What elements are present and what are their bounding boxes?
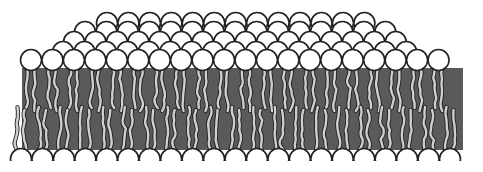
lipid-head-front [171,50,192,71]
lipid-head-front [149,50,170,71]
lipid-head-front [364,50,385,71]
lipid-head-front [85,50,106,71]
lipid-head-front [342,50,363,71]
lipid-head-front [128,50,149,71]
lipid-bilayer-diagram [0,0,483,171]
lipid-head-front [299,50,320,71]
lipid-head-front [278,50,299,71]
lipid-head-front [214,50,235,71]
lipid-head-front [106,50,127,71]
lipid-head-front [428,50,449,71]
lipid-head-front [407,50,428,71]
lipid-head-front [321,50,342,71]
lipid-head-front [63,50,84,71]
lipid-head-front [192,50,213,71]
lipid-head-front [385,50,406,71]
hydrophobic-core [15,68,463,150]
lipid-head-front [256,50,277,71]
bottom-mask [0,161,483,171]
lipid-tail [295,107,297,150]
lipid-head-front [21,50,42,71]
bottom-leaflet-heads [0,149,483,172]
lipid-head-front [235,50,256,71]
lipid-tail [305,68,307,108]
lipid-head-front [42,50,63,71]
